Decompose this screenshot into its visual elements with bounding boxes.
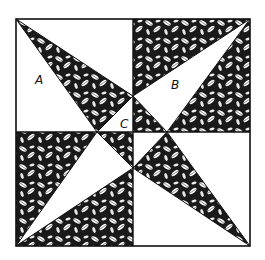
quadrant-bottom-left: [16, 132, 133, 246]
quadrant-bottom-right: [133, 132, 250, 246]
label-a: A: [34, 73, 43, 87]
quilt-block-diagram: A B C: [0, 0, 265, 260]
quadrant-top-left: [16, 19, 133, 132]
quadrant-top-right: [133, 19, 250, 132]
label-b: B: [171, 78, 179, 92]
label-c: C: [120, 117, 129, 131]
